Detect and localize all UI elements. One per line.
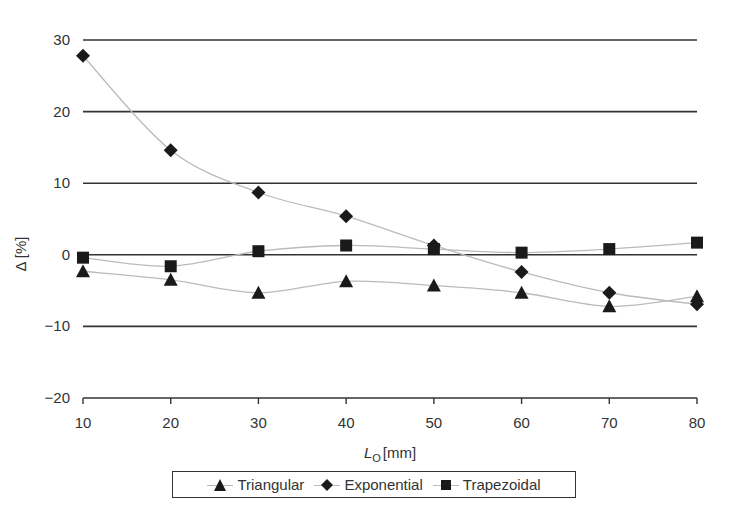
x-tick-label: 30 [250,414,267,431]
y-axis-ticks: 3020100−10−20 [45,31,70,406]
square-marker-icon [340,239,352,251]
x-tick-label: 80 [689,414,706,431]
square-marker-icon [516,247,528,259]
x-tick-label: 50 [426,414,443,431]
data-series [76,49,704,313]
square-marker-icon [252,245,264,257]
diamond-marker-icon [339,209,353,223]
legend-label: Trapezoidal [463,476,541,493]
y-tick-label: 0 [62,246,70,263]
square-marker-icon [433,478,459,492]
square-marker-icon [603,243,615,255]
square-marker-icon [77,252,89,264]
triangle-marker-icon [207,478,233,492]
diamond-marker-icon [314,478,340,492]
legend-label: Exponential [344,476,422,493]
legend-item-trapezoidal: Trapezoidal [433,476,541,493]
gridlines [83,40,697,398]
triangle-marker-icon [76,264,90,277]
square-marker-icon [165,260,177,272]
square-marker-icon [691,237,703,249]
y-tick-label: 10 [53,174,70,191]
legend-item-triangular: Triangular [207,476,304,493]
y-tick-label: −20 [45,389,70,406]
diamond-marker-icon [602,286,616,300]
x-tick-label: 10 [75,414,92,431]
legend-label: Triangular [237,476,304,493]
x-axis-title: LO[mm] [364,444,416,464]
square-marker-icon [428,243,440,255]
x-tick-label: 60 [513,414,530,431]
line-chart: 3020100−10−20 1020304050607080 Δ [%] LO[… [0,0,729,470]
x-tick-label: 40 [338,414,355,431]
y-axis-title: Δ [%] [12,236,29,271]
diamond-marker-icon [515,265,529,279]
y-tick-label: 20 [53,103,70,120]
x-tick-label: 20 [162,414,179,431]
y-tick-label: −10 [45,317,70,334]
chart-legend: Triangular Exponential Trapezoidal [172,471,576,498]
legend-item-exponential: Exponential [314,476,422,493]
diamond-marker-icon [251,186,265,200]
x-axis: 1020304050607080 [75,398,706,431]
y-tick-label: 30 [53,31,70,48]
x-tick-label: 70 [601,414,618,431]
